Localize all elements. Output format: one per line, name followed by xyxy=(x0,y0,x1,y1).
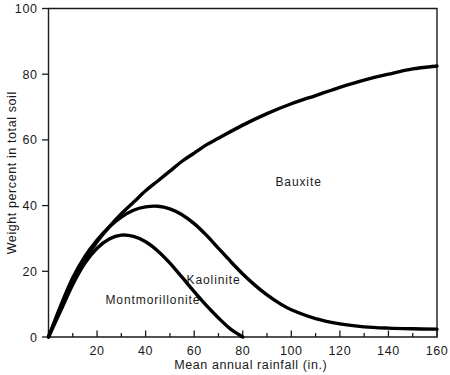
y-axis-title: Weight percent in total soil xyxy=(5,91,19,254)
chart-background xyxy=(0,0,450,375)
x-tick-label: 40 xyxy=(138,344,153,358)
x-tick-label: 20 xyxy=(90,344,105,358)
x-tick-label: 60 xyxy=(187,344,202,358)
x-tick-label: 80 xyxy=(235,344,250,358)
y-tick-label: 20 xyxy=(22,265,37,279)
curve-label-kaolinite: Kaolinite xyxy=(187,273,241,287)
figure-container: 20406080100120140160 020406080100 Montmo… xyxy=(0,0,450,375)
x-tick-label: 160 xyxy=(426,344,449,358)
y-tick-label: 0 xyxy=(30,331,38,345)
curve-label-bauxite: Bauxite xyxy=(275,175,321,189)
x-tick-label: 140 xyxy=(377,344,400,358)
x-tick-label: 120 xyxy=(329,344,352,358)
x-tick-label: 100 xyxy=(280,344,303,358)
y-tick-label: 60 xyxy=(22,133,37,147)
y-tick-label: 40 xyxy=(22,199,37,213)
curve-label-montmorillonite: Montmorillonite xyxy=(105,293,200,307)
y-tick-label: 80 xyxy=(22,68,37,82)
y-tick-label: 100 xyxy=(15,2,38,16)
soil-mineral-rainfall-chart: 20406080100120140160 020406080100 Montmo… xyxy=(0,0,450,375)
x-axis-title: Mean annual rainfall (in.) xyxy=(174,358,327,372)
